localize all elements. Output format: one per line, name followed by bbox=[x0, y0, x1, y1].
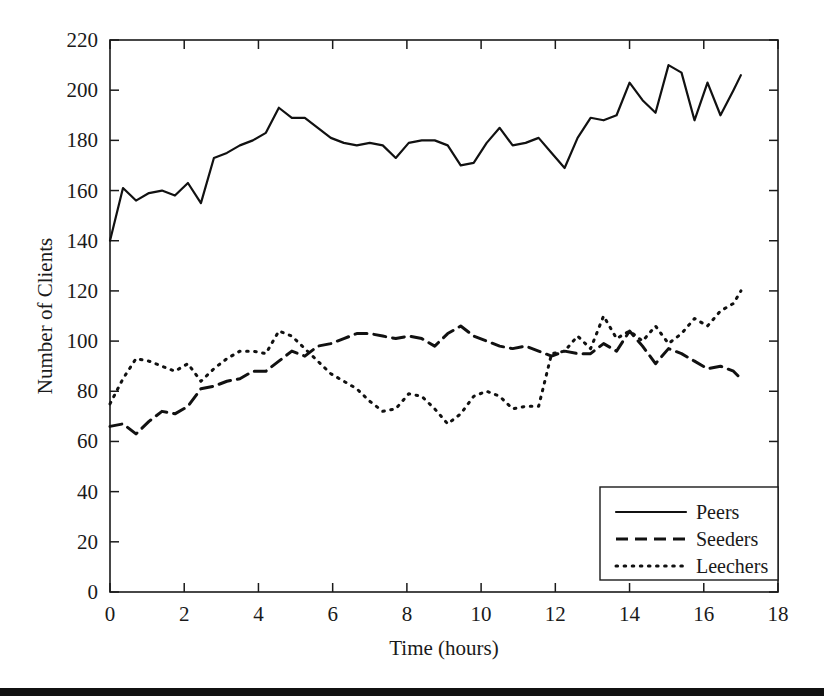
x-axis-title: Time (hours) bbox=[389, 636, 498, 660]
x-tick-label: 2 bbox=[179, 602, 190, 626]
x-tick-label: 16 bbox=[693, 602, 714, 626]
x-tick-label: 10 bbox=[471, 602, 492, 626]
y-axis-title: Number of Clients bbox=[33, 238, 57, 394]
y-tick-label: 220 bbox=[67, 28, 99, 52]
y-tick-label: 140 bbox=[67, 229, 99, 253]
y-axis-tick-labels: 020406080100120140160180200220 bbox=[67, 28, 99, 604]
x-tick-label: 14 bbox=[619, 602, 641, 626]
chart-figure: 020406080100120140160180200220 024681012… bbox=[0, 0, 824, 696]
x-tick-label: 0 bbox=[105, 602, 116, 626]
legend-label-peers: Peers bbox=[696, 501, 740, 523]
y-tick-label: 160 bbox=[67, 179, 99, 203]
page-edge-bar bbox=[0, 688, 824, 696]
series-line-peers bbox=[110, 65, 741, 241]
x-tick-label: 12 bbox=[545, 602, 566, 626]
y-tick-label: 200 bbox=[67, 78, 99, 102]
y-tick-label: 40 bbox=[77, 480, 98, 504]
series-line-seeders bbox=[110, 326, 741, 434]
y-tick-label: 0 bbox=[88, 580, 99, 604]
x-tick-label: 6 bbox=[327, 602, 338, 626]
line-chart: 020406080100120140160180200220 024681012… bbox=[0, 0, 824, 696]
y-tick-label: 60 bbox=[77, 429, 98, 453]
data-series-group bbox=[110, 65, 741, 434]
x-tick-label: 8 bbox=[402, 602, 413, 626]
x-tick-label: 18 bbox=[768, 602, 789, 626]
chart-legend: PeersSeedersLeechers bbox=[600, 487, 778, 580]
y-tick-label: 100 bbox=[67, 329, 99, 353]
y-tick-label: 180 bbox=[67, 128, 99, 152]
y-tick-label: 80 bbox=[77, 379, 98, 403]
x-axis-tick-labels: 024681012141618 bbox=[105, 602, 789, 626]
series-line-leechers bbox=[110, 291, 741, 424]
x-tick-label: 4 bbox=[253, 602, 264, 626]
y-tick-label: 120 bbox=[67, 279, 99, 303]
legend-label-leechers: Leechers bbox=[696, 555, 768, 577]
y-tick-label: 20 bbox=[77, 530, 98, 554]
legend-label-seeders: Seeders bbox=[696, 528, 758, 550]
